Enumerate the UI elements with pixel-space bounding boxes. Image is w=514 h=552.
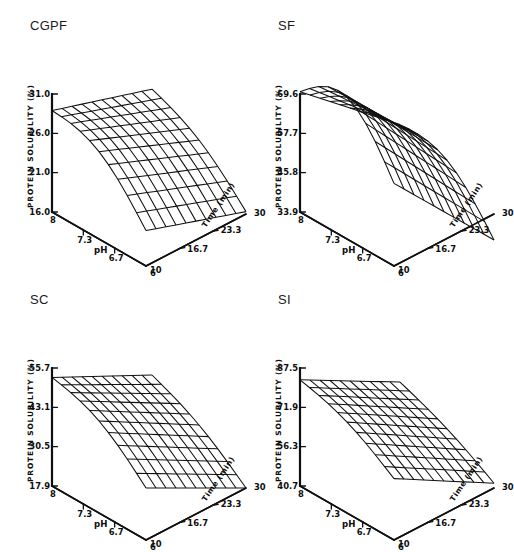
z-axis-tick-label: 87.5 — [258, 363, 298, 373]
ph-axis-label: pH — [94, 519, 107, 529]
z-axis-label: PROTEIN SOLUBILITY (%) — [274, 358, 283, 482]
ph-axis-tick-label: 8 — [50, 215, 56, 225]
time-axis-tick-label: 23.3 — [221, 225, 242, 235]
surface-plot-panel: SIPROTEIN SOLUBILITY (%)40.756.371.987.5… — [248, 274, 496, 548]
ph-axis-label: pH — [94, 245, 107, 255]
z-axis-label: PROTEIN SOLUBILITY (%) — [26, 84, 35, 208]
ph-axis-tick-label: 8 — [298, 489, 304, 499]
z-axis-tick-label: 30.5 — [10, 441, 50, 451]
ph-axis-tick-label: 6.7 — [357, 253, 372, 263]
time-axis-tick-label: 16.7 — [187, 518, 208, 528]
surface-plot-panel: SCPROTEIN SOLUBILITY (%)17.930.543.155.7… — [0, 274, 248, 548]
surface-plot-panel: CGPFPROTEIN SOLUBILITY (%)16.021.026.031… — [0, 0, 248, 274]
time-axis-tick-label: 16.7 — [435, 244, 456, 254]
ph-axis-tick-label: 7.3 — [325, 509, 340, 519]
panel-title: SF — [278, 18, 295, 33]
z-axis-tick-label: 40.7 — [258, 481, 298, 491]
panel-title: SI — [278, 292, 291, 307]
ph-axis-tick-label: 6.7 — [357, 527, 372, 537]
z-axis-tick-label: 26.0 — [10, 128, 50, 138]
panel-title: SC — [30, 292, 49, 307]
time-axis-tick-label: 23.3 — [469, 225, 490, 235]
surface-faces — [300, 86, 494, 240]
z-axis-tick-label: 16.0 — [10, 207, 50, 217]
time-axis-tick-label: 16.7 — [187, 244, 208, 254]
time-axis-tick-label: 30 — [502, 482, 514, 492]
ph-axis-tick-label: 7.3 — [325, 235, 340, 245]
time-axis-tick-label: 30 — [502, 208, 514, 218]
ph-axis-tick-label: 8 — [50, 489, 56, 499]
time-axis-tick-label: 23.3 — [221, 499, 242, 509]
ph-axis-tick-label: 7.3 — [77, 235, 92, 245]
ph-axis-tick-label: 6.7 — [109, 253, 124, 263]
z-axis-tick-label: 69.6 — [258, 89, 298, 99]
z-axis-tick-label: 55.7 — [10, 363, 50, 373]
z-axis-tick-label: 21.0 — [10, 167, 50, 177]
z-axis-tick-label: 43.1 — [10, 402, 50, 412]
time-axis-tick-label: 10 — [150, 539, 162, 549]
ph-axis-tick-label: 6.7 — [109, 527, 124, 537]
time-axis-tick-label: 16.7 — [435, 518, 456, 528]
z-axis-label: PROTEIN SOLUBILITY (%) — [274, 84, 283, 208]
z-axis-tick-label: 56.3 — [258, 441, 298, 451]
z-axis-tick-label: 31.0 — [10, 89, 50, 99]
ph-axis-label: pH — [342, 245, 355, 255]
z-axis-tick-label: 45.8 — [258, 167, 298, 177]
panel-title: CGPF — [30, 18, 67, 33]
ph-axis-tick-label: 7.3 — [77, 509, 92, 519]
ph-axis-label: pH — [342, 519, 355, 529]
surface-plot-panel: SFPROTEIN SOLUBILITY (%)33.945.857.769.6… — [248, 0, 496, 274]
z-axis-tick-label: 57.7 — [258, 128, 298, 138]
z-axis-tick-label: 33.9 — [258, 207, 298, 217]
z-axis-label: PROTEIN SOLUBILITY (%) — [26, 358, 35, 482]
z-axis-tick-label: 71.9 — [258, 402, 298, 412]
time-axis-tick-label: 23.3 — [469, 499, 490, 509]
ph-axis-tick-label: 8 — [298, 215, 304, 225]
time-axis-tick-label: 10 — [398, 539, 410, 549]
z-axis-tick-label: 17.9 — [10, 481, 50, 491]
